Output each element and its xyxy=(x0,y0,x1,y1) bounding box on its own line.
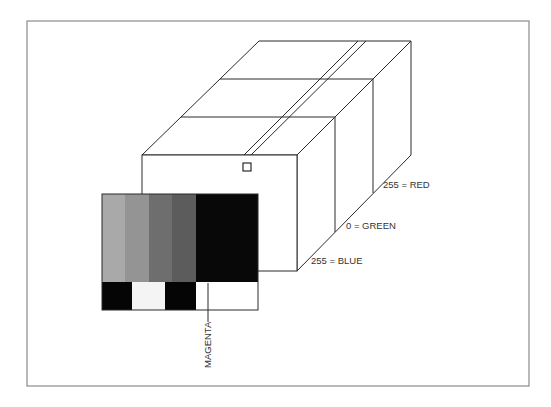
swatch-stripe-2 xyxy=(125,194,149,282)
swatch-stripe-3 xyxy=(149,194,172,282)
green-axis-label: 0 = GREEN xyxy=(346,220,396,231)
red-axis-label: 255 = RED xyxy=(383,179,430,190)
swatch-stripe-5 xyxy=(196,194,258,282)
color-swatch xyxy=(102,194,258,310)
swatch-bottom-2 xyxy=(132,282,165,310)
swatch-stripe-1 xyxy=(102,194,125,282)
swatch-stripe-4 xyxy=(172,194,196,282)
swatch-bottom-4 xyxy=(196,282,258,310)
blue-axis-label: 255 = BLUE xyxy=(311,255,363,266)
swatch-bottom-1 xyxy=(102,282,132,310)
rgb-color-cube-diagram: MAGENTA 255 = RED 0 = GREEN 255 = BLUE xyxy=(0,0,551,407)
swatch-bottom-3 xyxy=(165,282,196,310)
magenta-label: MAGENTA xyxy=(202,321,213,368)
